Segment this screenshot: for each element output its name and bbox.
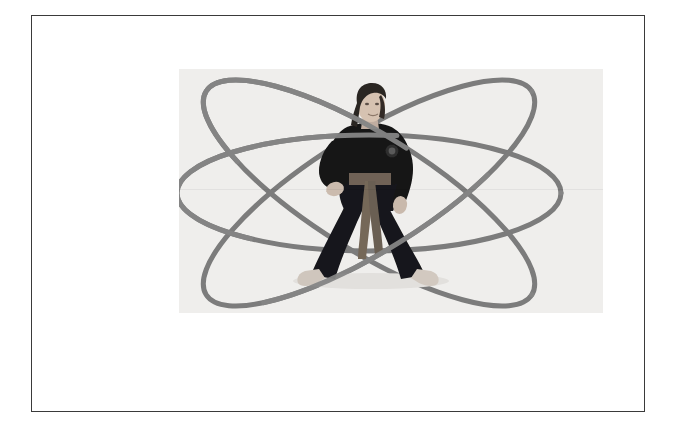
- eye-right: [375, 103, 379, 105]
- atom-illustration: [179, 69, 603, 313]
- page-canvas: [0, 0, 681, 441]
- gi-chest-patch-inner: [389, 148, 396, 155]
- eye-left: [365, 103, 369, 105]
- slide-border-frame: [31, 15, 645, 412]
- photograph: [179, 69, 603, 313]
